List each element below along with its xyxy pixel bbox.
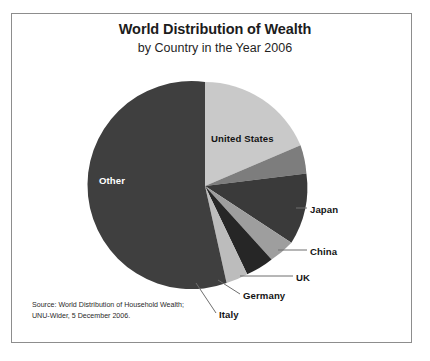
slice-label-germany: Germany xyxy=(243,290,285,301)
slice-label-japan: Japan xyxy=(310,204,338,215)
slice-label-united-states: United States xyxy=(211,133,274,144)
slice-label-italy: Italy xyxy=(219,309,239,320)
slice-label-uk: UK xyxy=(296,272,310,283)
slice-label-china: China xyxy=(310,246,337,257)
slice-label-other: Other xyxy=(99,175,125,186)
source-note: Source: World Distribution of Household … xyxy=(32,300,184,322)
